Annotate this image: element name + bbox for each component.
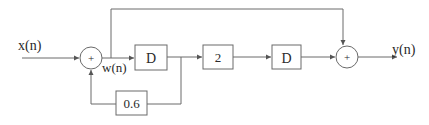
gain-block: 2 [203, 45, 233, 69]
summer-2: + [336, 46, 358, 68]
summer-1: + [80, 47, 102, 69]
summer-2-plus: + [344, 51, 350, 63]
delay-block-1: D [135, 45, 167, 70]
delay-block-1-label: D [146, 51, 156, 66]
summer-1-plus: + [88, 52, 94, 64]
delay-block-2-label: D [281, 51, 291, 66]
feedback-gain-label: 0.6 [123, 96, 140, 111]
output-label: y(n) [392, 42, 416, 58]
gain-block-label: 2 [215, 50, 222, 65]
feedback-gain-block: 0.6 [116, 91, 147, 115]
block-diagram: x(n) + w(n) D 0.6 2 D + y(n) [0, 0, 429, 125]
input-label: x(n) [18, 38, 42, 54]
intermediate-label: w(n) [102, 60, 127, 75]
delay-block-2: D [272, 45, 301, 69]
feedback-path-left [91, 70, 116, 104]
